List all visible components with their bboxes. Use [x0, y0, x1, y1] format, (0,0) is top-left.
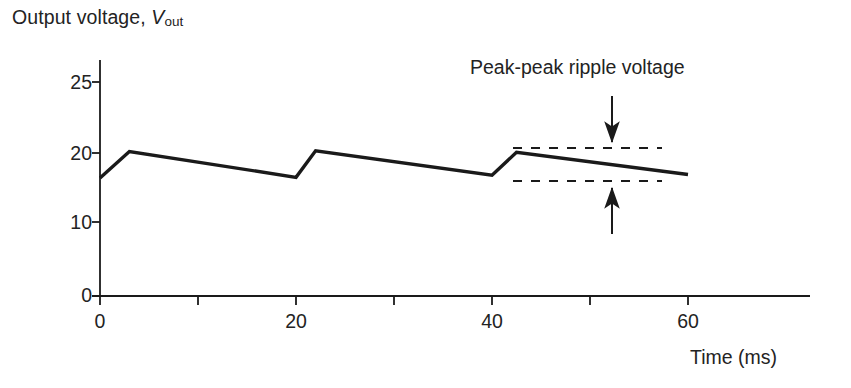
- ripple-voltage-figure: Output voltage, Vout Peak-peak ripple vo…: [0, 0, 851, 388]
- output-voltage-waveform: [100, 151, 688, 178]
- plot-area: [0, 0, 851, 388]
